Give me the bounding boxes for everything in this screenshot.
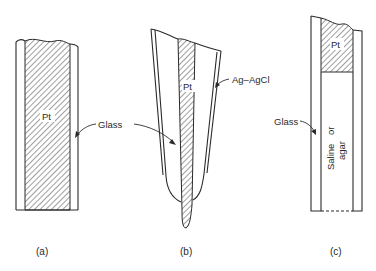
pt-core-b <box>178 39 195 228</box>
agagcl-arrow-b <box>217 79 229 85</box>
glass-inner-left-b <box>155 30 181 202</box>
agagcl-label-b: Ag–AgCl <box>232 74 270 85</box>
caption-a: (a) <box>36 246 48 257</box>
glass-arrow-c <box>300 121 314 131</box>
pt-label-b: Pt <box>183 81 192 92</box>
glass-wall-right-a <box>70 44 78 210</box>
glass-arrow-b <box>134 124 173 142</box>
glass-wall-right-b <box>207 51 221 173</box>
pt-label-c: Pt <box>331 39 340 50</box>
panel-a: Pt Glass (a) <box>16 39 123 257</box>
pt-label-a: Pt <box>42 111 51 122</box>
glass-label-c: Glass <box>274 116 299 127</box>
caption-b: (b) <box>180 246 192 257</box>
caption-c: (c) <box>330 246 342 257</box>
glass-arrow-a <box>77 124 96 135</box>
glass-label-a: Glass <box>98 119 123 130</box>
arrowhead-icon <box>169 139 176 145</box>
panel-c: Pt Glass Saline or agar (c) <box>274 16 362 257</box>
electrode-diagram: Pt Glass (a) Pt Ag–AgCl (b) <box>0 0 376 271</box>
glass-inner-right-b <box>193 52 217 200</box>
glass-wall-left-c <box>311 16 321 211</box>
pt-core-a <box>25 39 70 210</box>
fill-label-line1-c: Saline or <box>325 126 336 170</box>
glass-wall-left-a <box>16 40 25 210</box>
panel-b: Pt Ag–AgCl (b) <box>134 29 270 257</box>
fill-label-line2-c: agar <box>336 141 347 160</box>
glass-wall-right-c <box>353 30 362 211</box>
